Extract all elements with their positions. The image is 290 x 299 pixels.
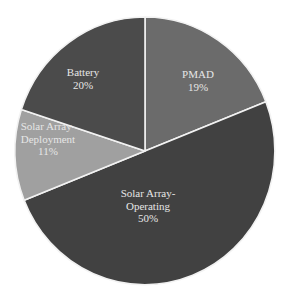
slice-label-line: Deployment xyxy=(21,133,75,145)
slice-label-line: 19% xyxy=(188,81,208,93)
slice-label-line: Operating xyxy=(126,200,170,212)
slice-label-line: Solar Array- xyxy=(121,187,176,199)
slice-label-line: 11% xyxy=(38,145,58,157)
slice-label-line: PMAD xyxy=(182,68,214,80)
pie-chart: PMAD19%Solar Array-Operating50%Solar Arr… xyxy=(0,0,290,299)
slice-label-line: Solar Array- xyxy=(21,120,76,132)
slice-label-line: Battery xyxy=(67,66,100,78)
slice-label-line: 50% xyxy=(138,212,158,224)
slice-label-line: 20% xyxy=(73,79,93,91)
